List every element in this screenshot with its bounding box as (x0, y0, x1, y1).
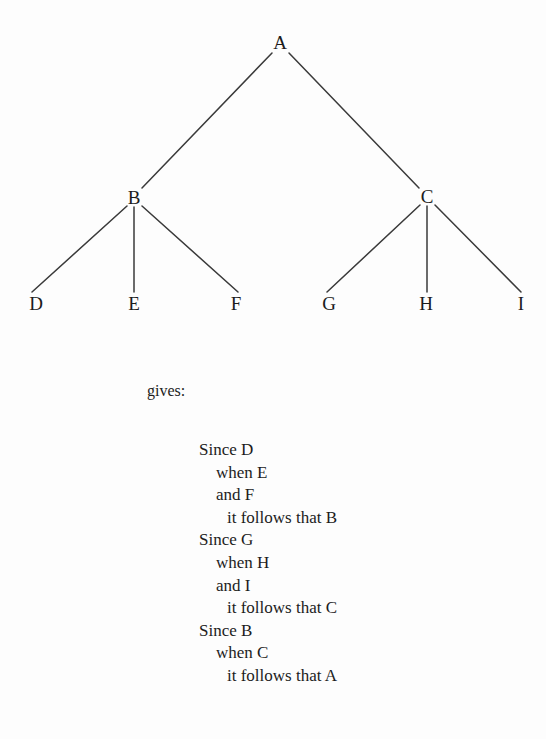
proof-line: it follows that B (199, 507, 337, 530)
tree-edge-a-c (289, 53, 419, 188)
proof-line: it follows that A (199, 665, 337, 688)
proof-line: Since B (199, 620, 337, 643)
tree-node-f: F (231, 294, 242, 313)
proof-line: when C (199, 642, 337, 665)
proof-line: when E (199, 462, 337, 485)
gives-label: gives: (147, 381, 185, 400)
tree-node-b: B (128, 188, 141, 207)
tree-node-a: A (273, 33, 287, 52)
tree-node-e: E (128, 294, 140, 313)
proof-line: when H (199, 552, 337, 575)
page-canvas: ABCDEFGHI gives: Since Dwhen Eand Fit fo… (0, 0, 546, 739)
tree-edge-a-b (142, 53, 272, 188)
proof-text-block: Since Dwhen Eand Fit follows that BSince… (199, 439, 337, 688)
tree-edge-b-f (142, 206, 238, 292)
proof-line: and I (199, 575, 337, 598)
proof-line: Since D (199, 439, 337, 462)
tree-edge-b-d (32, 206, 127, 292)
tree-node-h: H (419, 294, 433, 313)
proof-line: and F (199, 484, 337, 507)
tree-node-c: C (421, 187, 434, 206)
tree-diagram-figure: ABCDEFGHI (0, 0, 546, 330)
proof-line: it follows that C (199, 597, 337, 620)
proof-line: Since G (199, 529, 337, 552)
tree-edge-c-g (327, 205, 420, 292)
tree-node-g: G (322, 294, 336, 313)
tree-edge-c-i (435, 205, 521, 292)
tree-node-d: D (29, 294, 43, 313)
tree-node-i: I (518, 294, 524, 313)
